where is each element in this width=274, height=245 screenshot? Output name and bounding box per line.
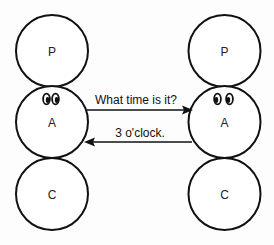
left-child-label: C [48, 188, 57, 202]
right-child-label: C [220, 188, 229, 202]
diagram-svg: P A C P A C [0, 0, 274, 245]
message-question-text: What time is it? [95, 93, 177, 107]
left-adult-label: A [48, 116, 56, 130]
right-person: P A C [189, 15, 261, 230]
left-person: P A C [16, 15, 88, 230]
message-answer: 3 o'clock. [84, 126, 192, 147]
right-adult-label: A [220, 116, 228, 130]
left-parent-label: P [48, 45, 56, 59]
transaction-diagram: P A C P A C [0, 0, 274, 245]
right-parent-label: P [220, 45, 228, 59]
message-answer-text: 3 o'clock. [115, 126, 165, 140]
message-question: What time is it? [87, 93, 193, 115]
